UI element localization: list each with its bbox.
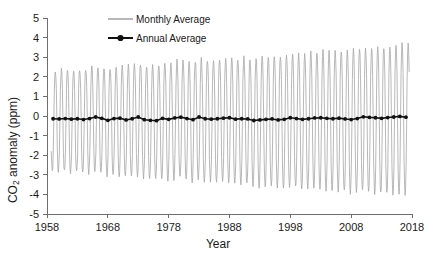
annual-average-point bbox=[69, 117, 73, 121]
y-tick-label: 0 bbox=[33, 110, 39, 122]
annual-average-point bbox=[301, 117, 305, 121]
annual-average-point bbox=[295, 117, 299, 121]
svg-text:CO2 anomaly (ppm): CO2 anomaly (ppm) bbox=[6, 97, 21, 203]
y-tick-label: 2 bbox=[33, 71, 39, 83]
annual-average-point bbox=[118, 116, 122, 120]
legend-marker-annual-average bbox=[117, 35, 123, 41]
annual-average-point bbox=[398, 114, 402, 118]
legend-item-monthly-average: Monthly Average bbox=[108, 14, 211, 25]
annual-average-point bbox=[246, 117, 250, 121]
annual-average-point bbox=[112, 117, 116, 121]
annual-average-point bbox=[392, 115, 396, 119]
y-tick-label: -2 bbox=[29, 149, 39, 161]
annual-average-point bbox=[76, 117, 80, 121]
annual-average-point bbox=[270, 117, 274, 121]
chart-legend: Monthly Average Annual Average bbox=[108, 14, 211, 44]
annual-average-point bbox=[63, 117, 67, 121]
annual-average-point bbox=[355, 117, 359, 121]
x-tick-label: 2018 bbox=[400, 221, 424, 233]
y-tick-label: -4 bbox=[29, 188, 39, 200]
chart-canvas: 543210-1-2-3-4-5 19581968197819881998200… bbox=[0, 0, 438, 260]
y-tick-label: 3 bbox=[33, 51, 39, 63]
annual-average-point bbox=[234, 117, 238, 121]
annual-average-point bbox=[88, 117, 92, 121]
annual-average-point bbox=[130, 117, 134, 121]
annual-average-point bbox=[51, 117, 55, 121]
annual-average-point bbox=[228, 116, 232, 120]
annual-average-point bbox=[149, 118, 153, 122]
y-axis-tick-labels: 543210-1-2-3-4-5 bbox=[29, 12, 39, 220]
co2-anomaly-chart: 543210-1-2-3-4-5 19581968197819881998200… bbox=[0, 0, 438, 260]
annual-average-point bbox=[106, 118, 110, 122]
annual-average-point bbox=[100, 116, 104, 120]
annual-average-point bbox=[203, 117, 207, 121]
y-tick-label: 4 bbox=[33, 32, 39, 44]
annual-average-point bbox=[179, 115, 183, 119]
y-axis-title: CO2 anomaly (ppm) bbox=[6, 97, 21, 203]
y-tick-label: 1 bbox=[33, 90, 39, 102]
annual-average-point bbox=[282, 117, 286, 121]
annual-average-point bbox=[215, 117, 219, 121]
annual-average-point bbox=[209, 117, 213, 121]
annual-average-point bbox=[343, 117, 347, 121]
annual-average-point bbox=[222, 116, 226, 120]
annual-average-point bbox=[155, 119, 159, 123]
annual-average-point bbox=[386, 116, 390, 120]
annual-average-point bbox=[319, 116, 323, 120]
annual-average-point bbox=[380, 116, 384, 120]
annual-average-point bbox=[361, 115, 365, 119]
y-tick-label: 5 bbox=[33, 12, 39, 24]
annual-average-point bbox=[337, 116, 341, 120]
legend-item-annual-average: Annual Average bbox=[108, 33, 207, 44]
annual-average-point bbox=[173, 116, 177, 120]
annual-average-point bbox=[167, 117, 171, 121]
annual-average-point bbox=[276, 118, 280, 122]
annual-average-point bbox=[331, 117, 335, 121]
annual-average-series bbox=[51, 114, 408, 122]
x-tick-label: 1988 bbox=[217, 221, 241, 233]
x-axis-tick-labels: 1958196819781988199820082018 bbox=[35, 221, 424, 233]
x-tick-label: 1998 bbox=[278, 221, 302, 233]
annual-average-point bbox=[404, 115, 408, 119]
annual-average-point bbox=[94, 115, 98, 119]
legend-label-monthly-average: Monthly Average bbox=[136, 14, 211, 25]
legend-label-annual-average: Annual Average bbox=[136, 33, 207, 44]
annual-average-point bbox=[142, 118, 146, 122]
y-axis-title-post: anomaly (ppm) bbox=[6, 97, 20, 180]
x-tick-label: 1978 bbox=[156, 221, 180, 233]
annual-average-point bbox=[197, 115, 201, 119]
x-axis-title: Year bbox=[206, 237, 230, 251]
annual-average-point bbox=[368, 115, 372, 119]
x-tick-label: 1968 bbox=[96, 221, 120, 233]
annual-average-point bbox=[288, 116, 292, 120]
annual-average-point bbox=[325, 116, 329, 120]
annual-average-point bbox=[124, 118, 128, 122]
y-tick-label: -3 bbox=[29, 169, 39, 181]
x-tick-label: 2008 bbox=[339, 221, 363, 233]
annual-average-point bbox=[185, 117, 189, 121]
annual-average-point bbox=[57, 117, 61, 121]
annual-average-point bbox=[191, 118, 195, 122]
annual-average-point bbox=[252, 119, 256, 123]
annual-average-point bbox=[161, 116, 165, 120]
y-tick-label: -1 bbox=[29, 130, 39, 142]
annual-average-point bbox=[374, 116, 378, 120]
y-axis-title-pre: CO bbox=[6, 185, 20, 203]
x-tick-label: 1958 bbox=[35, 221, 59, 233]
annual-average-point bbox=[258, 118, 262, 122]
annual-average-point bbox=[313, 116, 317, 120]
annual-average-point bbox=[349, 118, 353, 122]
annual-average-point bbox=[240, 117, 244, 121]
annual-average-point bbox=[136, 115, 140, 119]
y-tick-label: -5 bbox=[29, 208, 39, 220]
annual-average-point bbox=[82, 118, 86, 122]
annual-average-point bbox=[264, 117, 268, 121]
annual-average-point bbox=[307, 117, 311, 121]
